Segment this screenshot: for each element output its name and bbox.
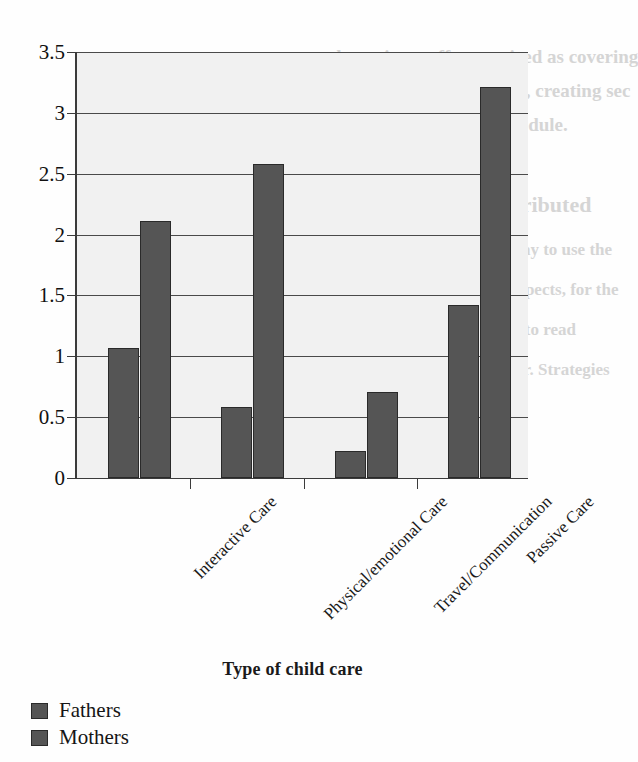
y-axis-tick-label: 1.5 [39,283,65,308]
y-axis-tick-label: 0 [55,466,66,491]
y-axis-tick [67,356,77,357]
bar-series-group [77,52,528,478]
x-axis-title: Type of child care [0,659,585,680]
y-axis-tick-label: 3.5 [39,40,65,65]
y-axis-tick-label: 3 [55,100,66,125]
x-axis-tick [417,478,418,489]
legend-swatch-icon-fathers [31,703,48,719]
bar-mothers-1 [253,164,284,478]
legend-swatch-icon-mothers [31,730,48,746]
legend-label-mothers: Mothers [59,727,129,748]
x-axis-tick [190,478,191,489]
x-axis-baseline [69,478,528,479]
y-axis-tick [67,113,77,114]
bar-mothers-3 [480,87,511,478]
legend-item-fathers: Fathers [31,697,129,724]
bar-fathers-1 [221,407,252,478]
bar-fathers-2 [335,451,366,478]
chart-legend: Fathers Mothers [31,697,129,751]
legend-item-mothers: Mothers [31,724,129,751]
bar-fathers-3 [448,305,479,478]
bar-mothers-0 [140,221,171,478]
y-axis-tick-label: 2.5 [39,161,65,186]
legend-label-fathers: Fathers [59,700,121,721]
y-axis-tick-label: 2 [55,222,66,247]
x-axis-category-label: Interactive Care [190,492,281,583]
y-axis-tick [67,417,77,418]
y-axis-tick-label: 0.5 [39,405,65,430]
bar-fathers-0 [108,348,139,478]
x-axis-tick [304,478,305,489]
y-axis-tick [67,295,77,296]
y-axis-tick-label: 1 [55,344,66,369]
bar-chart-plot-area: 00.511.522.533.5 [75,52,528,478]
y-axis-tick [67,174,77,175]
y-axis-tick [67,52,77,53]
y-axis-tick [67,235,77,236]
bar-mothers-2 [367,392,398,478]
